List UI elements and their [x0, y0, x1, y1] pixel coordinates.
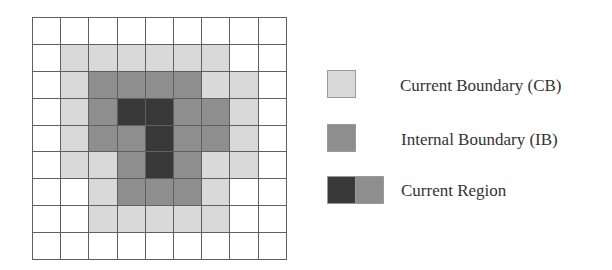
current-boundary-cell [146, 45, 174, 72]
current-boundary-cell [230, 99, 258, 126]
current-region-boundary-swatch [355, 176, 384, 204]
empty-cell [89, 233, 117, 260]
empty-cell [259, 72, 287, 99]
current-boundary-cell [118, 45, 146, 72]
current-region-cell [146, 152, 174, 179]
current-boundary-cell [230, 152, 258, 179]
empty-cell [61, 179, 89, 206]
empty-cell [230, 206, 258, 233]
internal-boundary-cell [174, 152, 202, 179]
empty-cell [174, 233, 202, 260]
empty-cell [174, 18, 202, 45]
internal-boundary-label: Internal Boundary (IB) [401, 130, 558, 150]
internal-boundary-cell [118, 126, 146, 153]
current-region-cell [146, 126, 174, 153]
empty-cell [230, 18, 258, 45]
empty-cell [259, 18, 287, 45]
empty-cell [259, 206, 287, 233]
current-boundary-cell [118, 206, 146, 233]
empty-cell [61, 18, 89, 45]
empty-cell [33, 72, 61, 99]
empty-cell [33, 152, 61, 179]
internal-boundary-cell [174, 99, 202, 126]
empty-cell [230, 233, 258, 260]
empty-cell [33, 179, 61, 206]
empty-cell [230, 45, 258, 72]
empty-cell [259, 233, 287, 260]
region-grid [32, 17, 287, 260]
current-boundary-cell [174, 206, 202, 233]
empty-cell [33, 126, 61, 153]
empty-cell [33, 206, 61, 233]
current-boundary-cell [202, 72, 230, 99]
current-boundary-cell [61, 72, 89, 99]
empty-cell [259, 152, 287, 179]
current-boundary-cell [89, 152, 117, 179]
current-boundary-cell [61, 45, 89, 72]
empty-cell [259, 179, 287, 206]
internal-boundary-cell [202, 126, 230, 153]
current-boundary-swatch [327, 70, 356, 98]
empty-cell [61, 206, 89, 233]
current-boundary-cell [202, 179, 230, 206]
internal-boundary-cell [146, 72, 174, 99]
empty-cell [146, 18, 174, 45]
empty-cell [118, 233, 146, 260]
internal-boundary-cell [202, 99, 230, 126]
internal-boundary-cell [174, 179, 202, 206]
current-boundary-cell [61, 152, 89, 179]
empty-cell [89, 18, 117, 45]
current-boundary-cell [202, 152, 230, 179]
empty-cell [33, 18, 61, 45]
internal-boundary-cell [89, 72, 117, 99]
empty-cell [118, 18, 146, 45]
internal-boundary-cell [89, 99, 117, 126]
empty-cell [259, 99, 287, 126]
empty-cell [259, 126, 287, 153]
current-boundary-cell [202, 45, 230, 72]
internal-boundary-cell [146, 179, 174, 206]
current-boundary-cell [89, 206, 117, 233]
current-region-cell [146, 99, 174, 126]
current-boundary-cell [230, 72, 258, 99]
empty-cell [146, 233, 174, 260]
current-boundary-cell [230, 126, 258, 153]
empty-cell [230, 179, 258, 206]
current-region-cell [118, 99, 146, 126]
current-region-core-swatch [327, 176, 356, 204]
current-boundary-cell [202, 206, 230, 233]
current-boundary-cell [89, 45, 117, 72]
current-boundary-cell [89, 179, 117, 206]
current-boundary-cell [61, 99, 89, 126]
internal-boundary-cell [118, 152, 146, 179]
empty-cell [33, 99, 61, 126]
internal-boundary-cell [118, 72, 146, 99]
current-boundary-label: Current Boundary (CB) [400, 76, 561, 96]
empty-cell [61, 233, 89, 260]
current-boundary-cell [146, 206, 174, 233]
empty-cell [202, 233, 230, 260]
internal-boundary-cell [89, 126, 117, 153]
internal-boundary-swatch [327, 124, 356, 152]
current-boundary-cell [61, 126, 89, 153]
empty-cell [33, 233, 61, 260]
empty-cell [202, 18, 230, 45]
current-region-label: Current Region [401, 181, 506, 201]
internal-boundary-cell [174, 72, 202, 99]
internal-boundary-cell [174, 126, 202, 153]
empty-cell [33, 45, 61, 72]
internal-boundary-cell [118, 179, 146, 206]
current-boundary-cell [174, 45, 202, 72]
empty-cell [259, 45, 287, 72]
